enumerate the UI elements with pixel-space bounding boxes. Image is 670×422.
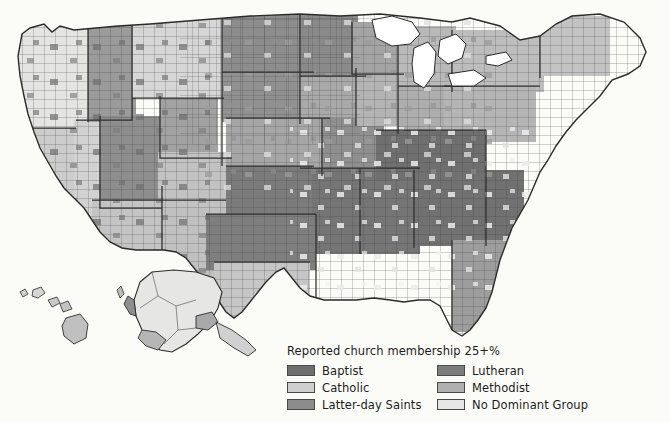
legend-swatch-baptist: [287, 365, 315, 376]
legend-label-no-dominant-group: No Dominant Group: [472, 398, 588, 412]
legend-item-baptist[interactable]: Baptist: [287, 364, 437, 378]
legend-item-methodist[interactable]: Methodist: [437, 381, 627, 395]
legend-item-lutheran[interactable]: Lutheran: [437, 364, 627, 378]
legend-swatch-latter-day-saints: [287, 399, 315, 410]
legend-item-latter-day-saints[interactable]: Latter-day Saints: [287, 398, 437, 412]
legend-title: Reported church membership 25+%: [287, 344, 627, 358]
legend-label-methodist: Methodist: [472, 381, 530, 395]
legend-swatch-lutheran: [437, 365, 465, 376]
legend-label-latter-day-saints: Latter-day Saints: [322, 398, 422, 412]
map-figure: Reported church membership 25+% Baptist …: [0, 0, 670, 422]
legend-label-baptist: Baptist: [322, 364, 363, 378]
legend-items: Baptist Lutheran Catholic Methodist Latt…: [287, 362, 627, 413]
map-legend: Reported church membership 25+% Baptist …: [287, 344, 627, 420]
legend-item-no-dominant-group[interactable]: No Dominant Group: [437, 398, 627, 412]
legend-swatch-catholic: [287, 382, 315, 393]
county-grid-coarse-west: [180, 14, 360, 144]
legend-item-catholic[interactable]: Catholic: [287, 381, 437, 395]
legend-label-lutheran: Lutheran: [472, 364, 524, 378]
legend-label-catholic: Catholic: [322, 381, 369, 395]
legend-swatch-methodist: [437, 382, 465, 393]
legend-swatch-no-dominant-group: [437, 399, 465, 410]
